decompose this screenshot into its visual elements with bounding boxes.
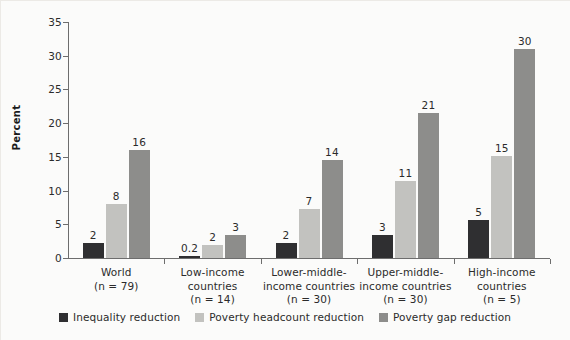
- bar-value-label: 16: [132, 136, 146, 148]
- y-tick-label-5: 5: [0, 218, 62, 230]
- y-tick-label-20: 20: [0, 117, 62, 129]
- category-label-line: High-income: [446, 266, 558, 280]
- bar[interactable]: 2: [276, 243, 297, 258]
- category-label-line: countries: [446, 280, 558, 294]
- category-label-line: (n = 5): [446, 293, 558, 307]
- bar[interactable]: 2: [202, 245, 223, 258]
- bar-value-label: 15: [495, 142, 509, 154]
- bar-value-label: 8: [113, 190, 120, 202]
- y-tick-label-15: 15: [0, 151, 62, 163]
- bar-group: 51530: [468, 22, 535, 258]
- legend-label: Inequality reduction: [73, 311, 180, 323]
- y-tick-label-0: 0: [0, 252, 62, 264]
- legend-item[interactable]: Poverty headcount reduction: [195, 311, 364, 323]
- bar[interactable]: 16: [129, 150, 150, 258]
- bar[interactable]: 14: [322, 160, 343, 258]
- bar[interactable]: 3: [372, 235, 393, 258]
- bar-value-label: 2: [283, 229, 290, 241]
- legend-item[interactable]: Inequality reduction: [59, 311, 180, 323]
- bar-group: 0.223: [179, 22, 246, 258]
- legend-swatch-icon: [59, 313, 68, 322]
- bar[interactable]: 2: [83, 243, 104, 259]
- bar[interactable]: 5: [468, 220, 489, 258]
- x-axis-tick: [454, 259, 455, 264]
- bar-group: 2816: [83, 22, 150, 258]
- bar[interactable]: 15: [491, 156, 512, 258]
- bar-value-label: 2: [90, 229, 97, 241]
- legend-item[interactable]: Poverty gap reduction: [379, 311, 511, 323]
- y-tick-label-35: 35: [0, 16, 62, 28]
- legend-swatch-icon: [379, 313, 388, 322]
- x-axis-category-label: High-incomecountries(n = 5): [446, 266, 558, 307]
- bar-value-label: 21: [422, 99, 436, 111]
- plot-area: 28160.22327143112151530: [68, 22, 550, 258]
- bar[interactable]: 11: [395, 181, 416, 258]
- bar-value-label: 0.2: [181, 242, 198, 254]
- bar-value-label: 30: [518, 35, 532, 47]
- bar-value-label: 5: [475, 206, 482, 218]
- y-tick-label-10: 10: [0, 185, 62, 197]
- bar[interactable]: 7: [299, 209, 320, 258]
- y-tick-label-25: 25: [0, 83, 62, 95]
- x-axis-tick: [357, 259, 358, 264]
- chart-legend: Inequality reductionPoverty headcount re…: [0, 311, 570, 323]
- x-axis-tick: [164, 259, 165, 264]
- legend-swatch-icon: [195, 313, 204, 322]
- y-tick-mark-0: [63, 258, 68, 259]
- x-axis-tick-end: [550, 259, 551, 264]
- bar[interactable]: 8: [106, 204, 127, 258]
- x-axis-tick: [261, 259, 262, 264]
- bar-value-label: 7: [306, 195, 313, 207]
- y-tick-label-30: 30: [0, 50, 62, 62]
- chart-figure: Percent 05101520253035 28160.22327143112…: [0, 0, 570, 340]
- bar-value-label: 3: [379, 221, 386, 233]
- bar[interactable]: 30: [514, 49, 535, 258]
- legend-label: Poverty headcount reduction: [209, 311, 364, 323]
- bar-group: 2714: [276, 22, 343, 258]
- bar-value-label: 11: [399, 167, 413, 179]
- bar-group: 31121: [372, 22, 439, 258]
- bar-value-label: 3: [232, 221, 239, 233]
- bar[interactable]: 0.2: [179, 256, 200, 258]
- bar-value-label: 14: [325, 146, 339, 158]
- bar-value-label: 2: [209, 231, 216, 243]
- bar[interactable]: 21: [418, 113, 439, 258]
- bar[interactable]: 3: [225, 235, 246, 258]
- legend-label: Poverty gap reduction: [393, 311, 511, 323]
- x-axis-line: [68, 258, 550, 259]
